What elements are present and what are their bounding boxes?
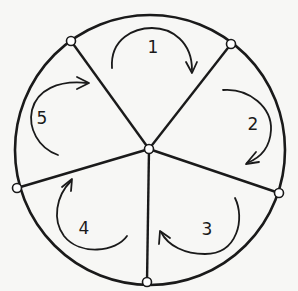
rim-node	[67, 37, 76, 46]
rim-node	[13, 184, 22, 193]
region-label: 4	[79, 218, 90, 238]
rotation-arrows	[31, 28, 271, 254]
spoke-edge	[17, 149, 149, 188]
hub-node	[145, 145, 154, 154]
spoke-edge	[147, 149, 149, 282]
region-label: 2	[248, 114, 259, 134]
region-label: 1	[148, 37, 159, 57]
rim-node	[275, 189, 284, 198]
rim-node	[143, 278, 152, 287]
rim-node	[227, 40, 236, 49]
region-label: 3	[202, 219, 213, 239]
spoke-edge	[149, 44, 231, 149]
curved-arrow-icon	[161, 198, 239, 254]
curved-arrow-icon	[57, 181, 127, 250]
region-4-arrow	[57, 179, 127, 250]
spoke-edge	[71, 41, 149, 149]
region-label: 5	[37, 108, 48, 128]
region-3-arrow	[159, 198, 239, 254]
wheel-graph-diagram: 12345	[0, 0, 298, 291]
